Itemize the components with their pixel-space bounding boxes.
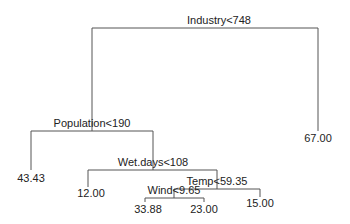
split-label-industry: Industry<748 [187,14,251,26]
leaf-33-88: 33.88 [134,203,162,215]
leaf-23-00: 23.00 [190,203,218,215]
split-label-population: Population<190 [54,117,131,129]
split-label-wetdays: Wet.days<108 [118,156,188,168]
split-industry: Industry<748 [92,14,318,131]
leaf-12-00: 12.00 [77,187,105,199]
leaf-67-00: 67.00 [304,132,332,144]
leaf-15-00: 15.00 [246,197,274,209]
split-label-wind: Wind<9.65 [148,184,201,196]
edge-wind [145,198,204,202]
tree-diagram: Industry<748 Population<190 Wet.days<108… [0,0,350,224]
edge-root [92,28,318,131]
leaf-43-43: 43.43 [17,172,45,184]
split-wind: Wind<9.65 [145,184,204,202]
